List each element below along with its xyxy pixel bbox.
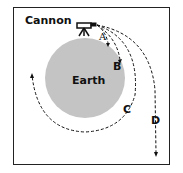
cannon-icon xyxy=(77,23,96,36)
label-c: C xyxy=(123,103,131,116)
label-a: A xyxy=(99,31,106,42)
cannon-label: Cannon xyxy=(25,14,72,27)
label-b: B xyxy=(113,60,121,73)
label-d: D xyxy=(151,114,160,127)
earth-label: Earth xyxy=(72,74,105,87)
